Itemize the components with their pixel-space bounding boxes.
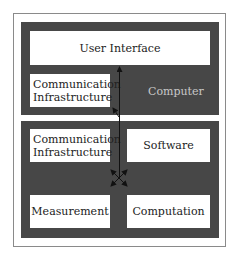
cross-arrow-lr <box>119 178 127 186</box>
connection-arrows <box>0 0 236 256</box>
cross-arrow-ur <box>119 170 127 178</box>
diagonal-arrow <box>113 108 119 117</box>
cross-arrow-ll <box>111 178 119 186</box>
cross-arrow-ul <box>111 170 119 178</box>
